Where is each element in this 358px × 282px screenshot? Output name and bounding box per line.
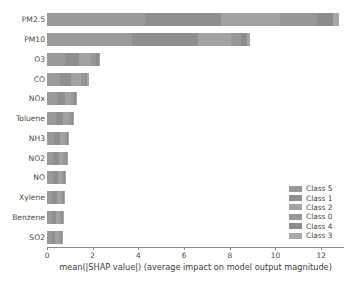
x-tick-mark [230,247,231,250]
bar-nox [47,92,77,105]
y-tick-label-toluene: Toluene [1,114,45,123]
legend-item-class-0[interactable]: Class 0 [289,212,333,221]
bar-segment-class-3 [65,171,66,184]
bar-no2 [47,152,68,165]
bar-segment-class-3 [63,211,64,224]
legend-item-class-5[interactable]: Class 5 [289,184,333,193]
x-tick-label: 8 [227,251,232,260]
bar-segment-class-3 [64,191,65,204]
bar-segment-class-2 [71,73,81,86]
bar-nh3 [47,132,69,145]
bar-pm2-5 [47,13,339,26]
bar-o3 [47,53,100,66]
x-tick-mark [184,247,185,250]
bar-segment-class-5 [47,53,65,66]
x-tick-label: 4 [136,251,141,260]
bar-segment-class-3 [68,132,69,145]
x-tick-label: 10 [271,251,280,260]
bar-xylene [47,191,65,204]
y-tick-label-so2: SO2 [1,233,45,242]
bar-segment-class-5 [47,112,56,125]
x-tick-label: 6 [182,251,187,260]
y-tick-label-o3: O3 [1,55,45,64]
legend-swatch-icon [289,195,302,201]
legend-label: Class 2 [306,203,333,212]
legend-item-class-4[interactable]: Class 4 [289,222,333,231]
bar-segment-class-1 [145,13,220,26]
legend-swatch-icon [289,186,302,192]
x-tick-mark [321,247,322,250]
legend-swatch-icon [289,204,302,210]
legend-label: Class 4 [306,222,333,231]
bar-segment-class-1 [60,73,71,86]
legend-label: Class 0 [306,212,333,221]
legend-swatch-icon [289,233,302,239]
bar-no [47,171,66,184]
bar-toluene [47,112,74,125]
bar-segment-class-1 [65,53,79,66]
x-axis-line [47,247,344,248]
x-axis-title: mean(|SHAP value|) (average impact on mo… [47,262,344,272]
bar-pm10 [47,33,250,46]
x-tick-mark [47,247,48,250]
bar-segment-class-5 [47,132,54,145]
legend-label: Class 5 [306,184,333,193]
legend-swatch-icon [289,214,302,220]
x-tick-mark [138,247,139,250]
y-tick-label-pm2-5: PM2.5 [1,15,45,24]
legend-swatch-icon [289,223,302,229]
bar-segment-class-3 [333,13,340,26]
shap-summary-bar-chart: PM2.5PM10O3CONOxTolueneNH3NO2NOXyleneBen… [0,0,358,282]
y-tick-label-no: NO [1,173,45,182]
bar-segment-class-3 [76,92,77,105]
bar-segment-class-3 [73,112,74,125]
bar-segment-class-5 [47,13,145,26]
bar-so2 [47,231,62,244]
bar-segment-class-5 [47,92,57,105]
y-axis-tick-labels: PM2.5PM10O3CONOxTolueneNH3NO2NOXyleneBen… [0,10,45,247]
bar-segment-class-3 [247,33,250,46]
bar-segment-class-2 [221,13,280,26]
y-tick-label-benzene: Benzene [1,213,45,222]
bar-benzene [47,211,64,224]
bar-segment-class-1 [132,33,198,46]
bar-segment-class-5 [47,73,60,86]
x-tick-label: 0 [45,251,50,260]
bar-segment-class-1 [56,112,63,125]
bar-segment-class-2 [79,53,90,66]
bar-co [47,73,89,86]
y-tick-label-no2: NO2 [1,154,45,163]
x-tick-mark [275,247,276,250]
bar-segment-class-3 [87,73,89,86]
legend-item-class-3[interactable]: Class 3 [289,231,333,240]
y-tick-label-nox: NOx [1,94,45,103]
legend-label: Class 3 [306,231,333,240]
legend-item-class-1[interactable]: Class 1 [289,193,333,202]
bar-segment-class-3 [67,152,68,165]
y-tick-label-xylene: Xylene [1,193,45,202]
x-tick-label: 12 [316,251,325,260]
bar-segment-class-0 [231,33,241,46]
bar-segment-class-0 [280,13,317,26]
legend-item-class-2[interactable]: Class 2 [289,203,333,212]
bar-segment-class-1 [57,92,65,105]
y-tick-label-pm10: PM10 [1,35,45,44]
bar-segment-class-3 [62,231,63,244]
legend: Class 5Class 1Class 2Class 0Class 4Class… [289,184,333,240]
y-tick-label-nh3: NH3 [1,134,45,143]
x-tick-label: 2 [90,251,95,260]
bar-segment-class-4 [317,13,333,26]
y-tick-label-co: CO [1,75,45,84]
legend-label: Class 1 [306,194,333,203]
x-tick-mark [93,247,94,250]
bar-segment-class-2 [198,33,231,46]
bar-segment-class-3 [99,53,101,66]
bar-segment-class-5 [47,33,132,46]
